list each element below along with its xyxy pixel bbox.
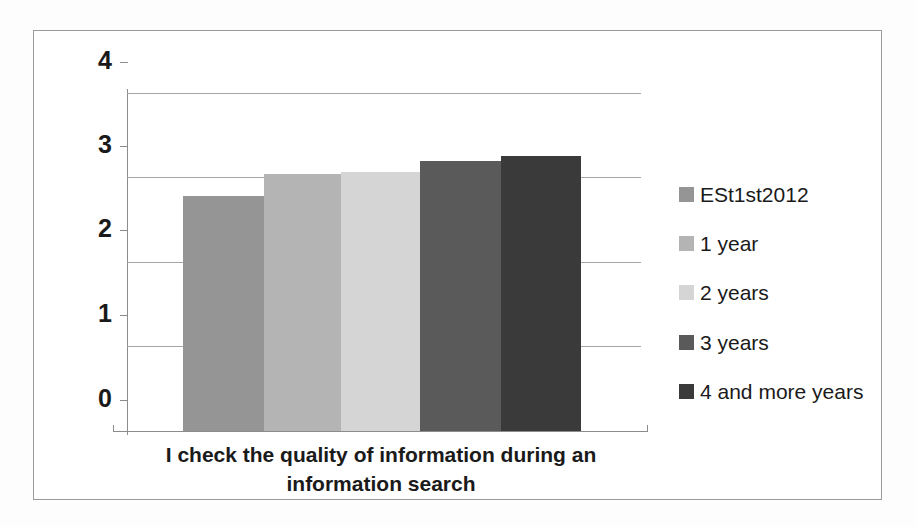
y-tick-4	[120, 62, 128, 63]
chart-frame: 4 3 2 1 0 I check the	[33, 30, 882, 500]
plot-area	[127, 93, 641, 431]
y-axis-label-3: 3	[72, 132, 112, 157]
bar-est1st2012	[183, 196, 264, 431]
legend-label: ESt1st2012	[700, 184, 809, 205]
x-axis-category-line-2: information search	[114, 470, 648, 499]
gridline-4	[127, 93, 641, 94]
legend-item-1-year: 1 year	[679, 230, 758, 256]
bar-2-years	[341, 172, 420, 431]
legend-swatch-icon	[679, 285, 694, 300]
legend-swatch-icon	[679, 236, 694, 251]
bar-4-and-more-years	[501, 156, 581, 431]
x-axis-start-tick	[113, 425, 114, 432]
legend-item-est1st2012: ESt1st2012	[679, 181, 809, 207]
legend-label: 3 years	[700, 332, 769, 353]
bar-chart: 4 3 2 1 0 I check the	[0, 0, 916, 527]
legend-swatch-icon	[679, 187, 694, 202]
bar-3-years	[420, 161, 501, 431]
y-axis-label-1: 1	[72, 301, 112, 326]
y-axis-label-4: 4	[72, 48, 112, 73]
legend-item-3-years: 3 years	[679, 329, 769, 355]
y-axis-labels: 4 3 2 1 0	[52, 31, 112, 501]
legend-label: 4 and more years	[700, 381, 863, 402]
x-axis-end-tick	[647, 425, 648, 432]
legend-label: 2 years	[700, 282, 769, 303]
legend-label: 1 year	[700, 233, 758, 254]
bar-1-year	[264, 174, 341, 431]
x-axis-line	[113, 431, 647, 432]
y-axis-label-2: 2	[72, 216, 112, 241]
x-axis-category-line-1: I check the quality of information durin…	[114, 441, 648, 470]
y-axis-label-0: 0	[72, 386, 112, 411]
legend-item-4-and-more-years: 4 and more years	[679, 378, 863, 404]
legend-item-2-years: 2 years	[679, 279, 769, 305]
x-axis-category-label: I check the quality of information durin…	[114, 441, 648, 499]
legend-swatch-icon	[679, 384, 694, 399]
legend-swatch-icon	[679, 335, 694, 350]
